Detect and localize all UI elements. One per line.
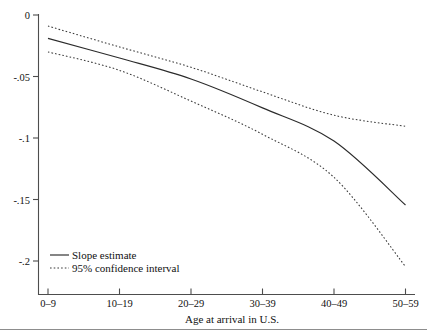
y-tick-label-0: 0 [25,10,30,21]
x-tick-label-1: 10–19 [106,298,132,309]
footer-divider [0,329,427,330]
chart-figure: 0 -.05 -.1 -.15 -.2 0–9 10–19 20–29 30–3… [0,0,427,334]
series-slope-estimate [48,38,406,205]
legend-label-confidence-interval: 95% confidence interval [72,262,180,274]
x-tick-label-2: 20–29 [178,298,204,309]
x-tick-label-5: 50–59 [392,298,418,309]
x-tick-label-3: 30–39 [249,298,275,309]
x-tick-label-0: 0–9 [40,298,56,309]
series-lower-confidence-bound [48,52,406,267]
x-axis-title: Age at arrival in U.S. [185,313,279,325]
series-upper-confidence-bound [48,26,406,126]
y-tick-label-1: -.05 [13,72,30,83]
y-tick-label-2: -.1 [19,133,30,144]
x-tick-label-4: 40–49 [321,298,347,309]
y-tick-label-3: -.15 [13,195,30,206]
y-tick-label-4: -.2 [19,256,30,267]
chart-legend: Slope estimate 95% confidence interval [50,249,180,274]
legend-label-slope-estimate: Slope estimate [72,249,137,261]
line-chart-canvas: 0 -.05 -.1 -.15 -.2 0–9 10–19 20–29 30–3… [0,0,427,334]
